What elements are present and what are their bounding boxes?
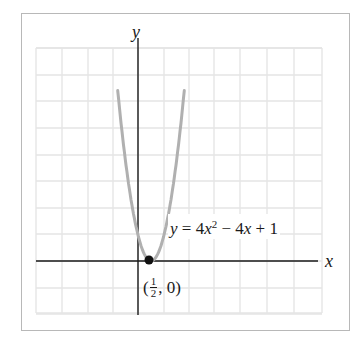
y-axis-label: y [132, 22, 140, 43]
point-label-rest: , 0) [158, 278, 181, 298]
point-label-open: ( [143, 278, 149, 298]
vertex-point [145, 256, 154, 265]
grid [36, 48, 322, 314]
point-label: ( 1 2 , 0) [143, 276, 181, 299]
equation-label: y = 4x2 − 4x + 1 [168, 214, 280, 239]
equation-term2: − 4 [217, 219, 244, 238]
equation-var: x [204, 219, 212, 238]
equation-lhs: y [170, 219, 178, 238]
fraction-denominator: 2 [151, 288, 157, 299]
equation-term3: + 1 [251, 219, 278, 238]
equation-eq: = 4 [178, 219, 205, 238]
x-axis-label: x [325, 251, 333, 272]
fraction-one-half: 1 2 [150, 276, 158, 299]
